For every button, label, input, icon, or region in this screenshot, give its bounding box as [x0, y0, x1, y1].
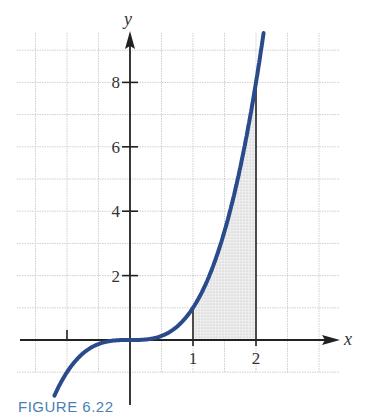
y-tick-label: 2	[112, 267, 121, 286]
figure-caption: FIGURE 6.22	[18, 398, 114, 415]
x-axis-label: x	[343, 329, 352, 349]
y-tick-label: 8	[112, 73, 121, 92]
y-tick-label: 6	[112, 138, 121, 157]
grid-lines	[17, 33, 340, 372]
axes	[20, 31, 340, 405]
y-axis-label: y	[122, 9, 132, 29]
x-tick-label: 2	[252, 349, 261, 368]
y-tick-label: 4	[112, 202, 121, 221]
x-tick-label: 1	[189, 349, 198, 368]
